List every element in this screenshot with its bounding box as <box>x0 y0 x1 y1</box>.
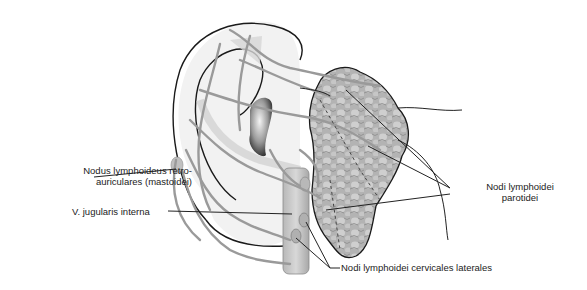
anatomical-illustration <box>0 0 587 290</box>
label-cervical-nodes: Nodi lymphoidei cervicales laterales <box>341 262 492 273</box>
label-parotid-line2: parotidei <box>470 192 570 203</box>
label-parotid-line1: Nodi lymphoidei <box>470 181 570 192</box>
parotid-gland <box>309 68 408 258</box>
label-parotid-nodes: Nodi lymphoidei parotidei <box>470 181 570 203</box>
label-jugular-vein: V. jugularis interna <box>72 206 150 217</box>
ear-lymphatics-diagram: Nodus lymphoideus retro- auriculares (ma… <box>0 0 587 290</box>
label-mastoid-nodes: Nodus lymphoideus retro- auriculares (ma… <box>12 165 192 187</box>
label-mastoid-line1: Nodus lymphoideus retro- <box>12 165 192 176</box>
label-mastoid-line2: auriculares (mastoidei) <box>12 176 192 187</box>
